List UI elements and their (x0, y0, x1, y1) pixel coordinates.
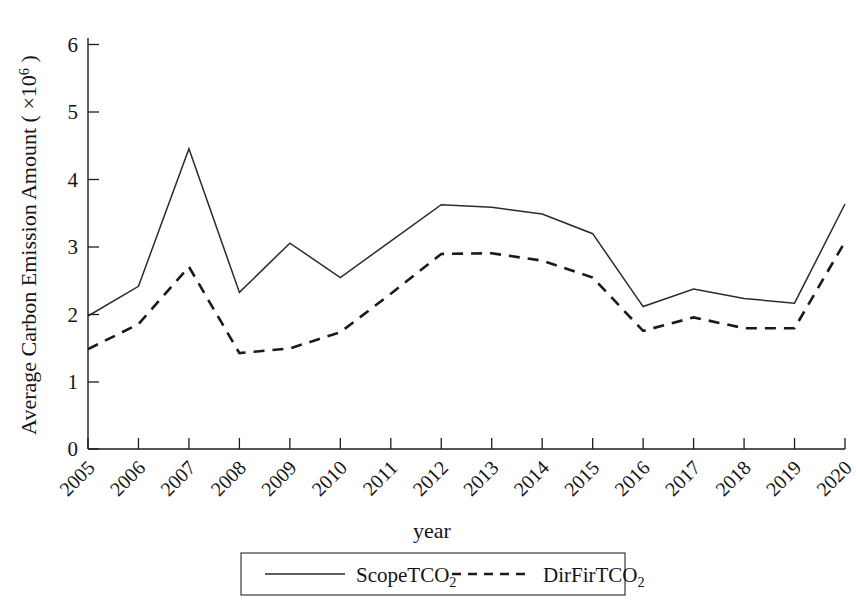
x-tick-label-2017: 2017 (661, 456, 705, 500)
y-tick-label-6: 6 (68, 33, 79, 57)
x-tick-label-2011: 2011 (358, 456, 401, 499)
x-tick-label-2019: 2019 (762, 456, 806, 500)
x-tick-label-2018: 2018 (711, 456, 755, 500)
series-line-dirfirtco2 (88, 242, 845, 353)
x-axis-title: year (413, 518, 452, 543)
chart-legend: ScopeTCO2 DirFirTCO2 (241, 553, 645, 595)
x-tick-label-2013: 2013 (459, 456, 503, 500)
y-axis-title-exponent: 6 (16, 68, 32, 75)
x-tick-label-2016: 2016 (610, 456, 654, 500)
y-tick-label-5: 5 (68, 100, 79, 124)
y-tick-label-1: 1 (68, 370, 79, 394)
x-tick-label-2009: 2009 (257, 456, 301, 500)
line-chart: Average Carbon Emission Amount ( ×106 ) … (0, 0, 856, 615)
y-axis-ticks (88, 45, 99, 450)
x-tick-label-2012: 2012 (408, 456, 452, 500)
legend-label-dirfirtco2: DirFirTCO2 (543, 563, 645, 590)
y-tick-label-2: 2 (68, 303, 79, 327)
x-axis-ticks (88, 438, 845, 449)
x-tick-label-2008: 2008 (206, 456, 250, 500)
chart-figure: Average Carbon Emission Amount ( ×106 ) … (0, 0, 856, 615)
y-axis-title-prefix: Average Carbon Emission Amount ( ×10 (16, 75, 41, 435)
x-tick-label-2020: 2020 (812, 456, 856, 500)
y-tick-label-3: 3 (68, 235, 79, 259)
x-tick-label-2005: 2005 (55, 456, 99, 500)
y-axis-title: Average Carbon Emission Amount ( ×106 ) (16, 55, 41, 435)
y-tick-label-4: 4 (68, 168, 79, 192)
legend-label-scopetco2: ScopeTCO2 (356, 563, 456, 590)
y-tick-label-0: 0 (68, 437, 79, 461)
x-tick-label-2007: 2007 (156, 456, 200, 500)
x-tick-label-2006: 2006 (105, 456, 149, 500)
y-axis-tick-labels: 6 5 4 3 2 1 0 (68, 33, 79, 461)
x-axis-tick-labels: 2005200620072008200920102011201220132014… (55, 456, 856, 500)
x-tick-label-2010: 2010 (307, 456, 351, 500)
x-tick-label-2015: 2015 (560, 456, 604, 500)
x-tick-label-2014: 2014 (509, 456, 553, 500)
svg-text:Average Carbon Emission Amount: Average Carbon Emission Amount ( ×106 ) (16, 55, 41, 435)
y-axis-title-suffix: ) (16, 55, 41, 68)
